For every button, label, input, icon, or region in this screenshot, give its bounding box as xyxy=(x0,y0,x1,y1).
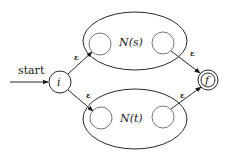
subautomaton-nt: N(t) xyxy=(83,89,187,149)
epsilon-edges: ε ε ε ε xyxy=(68,48,201,111)
subautomaton-ns: N(s) xyxy=(83,12,187,70)
final-state-label: f xyxy=(204,74,211,87)
nfa-diagram: start i N(s) N(t) f ε ε ε ε xyxy=(0,0,230,154)
edge-ns-to-f xyxy=(171,51,200,73)
initial-state: i xyxy=(49,71,71,93)
ns-end-state xyxy=(152,32,174,54)
nt-end-state xyxy=(152,106,174,128)
start-edge: start xyxy=(10,64,48,82)
nt-start-state xyxy=(90,107,112,129)
initial-state-label: i xyxy=(57,76,61,89)
edge-nt-to-f xyxy=(171,87,201,109)
epsilon-label-ns-f: ε xyxy=(190,48,195,58)
edge-i-to-ns xyxy=(68,52,92,74)
start-label: start xyxy=(18,64,45,77)
ns-label: N(s) xyxy=(118,36,143,49)
nt-label: N(t) xyxy=(119,112,143,125)
ns-start-state xyxy=(89,33,111,55)
epsilon-label-i-ns: ε xyxy=(74,52,79,62)
epsilon-label-i-nt: ε xyxy=(86,90,91,100)
epsilon-label-nt-f: ε xyxy=(180,90,185,100)
